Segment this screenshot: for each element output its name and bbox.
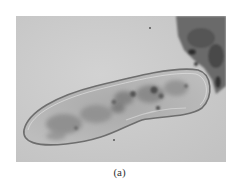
- micrograph-photo: [16, 16, 226, 162]
- paramecium-illustration: [16, 16, 226, 162]
- figure-caption: (a): [0, 166, 239, 178]
- figure: (a): [0, 0, 239, 189]
